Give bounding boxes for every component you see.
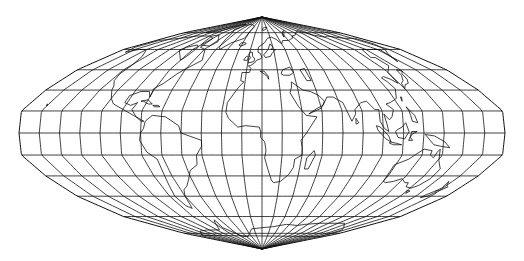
world-map (0, 0, 524, 261)
landmass-mediterranean-italy (260, 71, 269, 79)
landmass-ireland (244, 56, 248, 60)
landmass-black-sea (281, 67, 293, 75)
landmass-caspian (300, 68, 311, 80)
landmass-madagascar (304, 151, 315, 169)
graticule (19, 17, 505, 249)
landmass-south-america (140, 115, 202, 208)
map-canvas (0, 0, 524, 261)
landmass-philippines (406, 107, 418, 123)
landmass-java (390, 142, 402, 145)
landmass-hispaniola (153, 105, 160, 106)
landmass-taiwan (400, 97, 402, 101)
landmass-borneo (396, 123, 409, 139)
landmass-sri-lanka (356, 118, 359, 124)
landmass-new-guinea (425, 134, 450, 147)
landmass-new-zealand (436, 181, 449, 190)
